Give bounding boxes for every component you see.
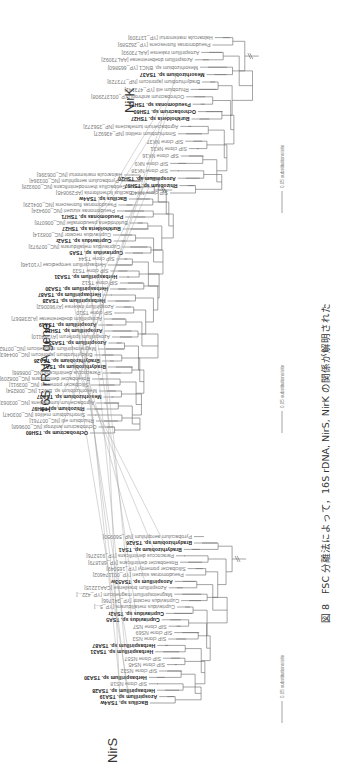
nirs-leaf-label: Cupriavidus necator [YP_341766] [101, 598, 179, 604]
nirk-clade [208, 67, 232, 74]
nirk-clade [178, 171, 204, 178]
nirs-leaf-label: SIP clone NS18 [110, 681, 147, 687]
nirk-clade [193, 141, 207, 148]
nirk-leaf-label: SIP clone NK9 [134, 161, 168, 167]
nirs-leaf-label: Paracoccus denitrificans [YP_915276] [86, 553, 174, 559]
nirk-leaf-label: Mesorhizobium sp. TSA37 [140, 72, 205, 78]
nirs-leaf-label: Cupriavidus sp. TSA2r [108, 611, 164, 617]
nirk-clade [200, 112, 222, 119]
nirk-clade [178, 156, 203, 163]
rrna16s-clade [106, 343, 125, 349]
nirk-clade [186, 126, 208, 133]
nirs-leaf-label: Silicibacter pomeroyi [YP_165049] [106, 566, 186, 572]
phylogenetic-trees: Bacillus sp. TSA4wAzospirillum sp. TSA19… [0, 0, 358, 773]
nirk-leaf-label: Rhizobium sp. TSH97 [124, 183, 177, 189]
nirs-clade [158, 697, 175, 703]
rrna16s-clade [118, 283, 144, 289]
rrna16s-clade [130, 247, 151, 253]
nirs-leaf-label: Azospirillum sp. TSA53w [110, 579, 173, 585]
nirk-scale-label: 0.05 substitutions/site [280, 144, 285, 188]
nirk-clade [208, 130, 227, 158]
rrna16s-clade [118, 271, 139, 277]
nirs-clade [174, 607, 193, 613]
nirs-clade [170, 620, 189, 626]
nirk-leaf-label: Bradyrhizobium japonicum [NP_773729] [107, 79, 200, 85]
nirs-leaf-label: Bradyrhizobium sp. TSA1 [119, 547, 182, 553]
nirk-clade [194, 97, 212, 104]
nirs-clade [182, 594, 207, 600]
nirk-leaf-label: SIP clone NK31 [150, 146, 187, 152]
nirk-leaf-label: Azospirillum doebereinerae [AAL73092] [101, 57, 193, 63]
nirs-clade [157, 684, 183, 690]
isolate-link [72, 361, 164, 543]
nirs-clade [184, 556, 208, 562]
nirs-leaf-label: SIP clone NS32 [120, 668, 157, 674]
nirk-leaf-label: SIP clone NK38 [131, 168, 168, 174]
nirk-leaf-label: SIP clone NK37 [147, 139, 184, 145]
rrna16s-scale-label: 0.05 substitutions/site [280, 364, 285, 408]
rrna16s-clade [125, 211, 153, 217]
nirs-leaf-label: SIP clone NS3 [132, 636, 166, 642]
nirs-leaf-label: Roseobacter denitrificans [YP_681879] [88, 560, 179, 566]
isolate-link [78, 367, 154, 549]
nirs-clade [157, 671, 181, 677]
nirs-leaf-label: Pseudomonas stutzeri [YP_001174602] [92, 572, 184, 578]
rrna16s-clade [99, 379, 120, 385]
nirk-leaf-label: Haloarcula marismortui [YP_137309] [127, 35, 212, 41]
nirs-leaf-label: SIP clone NS69 [136, 630, 173, 636]
nirs-clade [163, 645, 185, 651]
rrna16s-clade [111, 295, 136, 301]
rrna16s-clade [121, 235, 136, 241]
nirs-leaf-label: SIP clone NS57 [124, 656, 161, 662]
figure-canvas: NirS 16S rRNA gene NirK Bacillus sp. TSA… [0, 0, 358, 773]
nirk-clade [178, 186, 196, 193]
nirs-leaf-label: Cupriavidus metallidurans [YP_5...] [93, 604, 175, 610]
rrna16s-leaf-label: Haloarcula marismortui [NC_006396] [36, 172, 122, 178]
nirs-leaf-label: SIP clone NS45 [128, 662, 165, 668]
nirk-leaf-label: Sinorhizobium meliloti [NP_436927] [93, 131, 176, 137]
nirs-scale-label: 0.05 substitutions/site [280, 654, 285, 698]
nirs-leaf-label: Herbaspirillum sp. TSA28 [92, 688, 155, 694]
nirk-leaf-label: Pseudomonas fluorescens [YP_262589] [117, 42, 210, 48]
nirk-leaf-label: Azospirillum irakense [AAL73093] [121, 50, 199, 56]
nirk-clade [220, 38, 232, 45]
nirk-leaf-label: Pseudomonas sp. TSH71 [129, 102, 191, 108]
nirs-leaf-label: Azospirillum sp. TSA19 [99, 694, 157, 700]
nirs-clade [192, 543, 218, 549]
nirk-leaf-label: SIP clone NK40 [131, 190, 168, 196]
nirk-leaf-label: SIP clone NK16 [142, 153, 179, 159]
nirs-leaf-label: Pyrobaculum aerophilum [NP_560950] [102, 534, 192, 540]
rrna16s-clade [106, 319, 125, 325]
nirs-clade [177, 581, 197, 587]
nirk-leaf-label: Mesorhizobium sp. BNC1 [YP_665860] [107, 65, 198, 71]
nirk-leaf-label: Rhizobium etli [YP_473141] [124, 87, 189, 93]
nirk-clade [203, 52, 223, 59]
nirs-leaf-label: Herbaspirillum sp. TSA87 [92, 643, 155, 649]
nirs-leaf-label: Magnetospirillum magneticum [YP_422...] [76, 592, 173, 598]
nirs-clade [194, 569, 206, 575]
nirs-leaf-label: Azospirillum brasilense [CAA12215] [84, 585, 167, 591]
nirk-clade [199, 82, 219, 89]
nirs-leaf-label: Bacillus sp. TSA4w [99, 700, 148, 706]
nirs-clade [176, 633, 198, 639]
nirk-leaf-label: Azospirillum sp. TSH20 [118, 176, 176, 182]
nirs-leaf-label: Cupriavidus sp. TSA5 [106, 617, 160, 623]
rrna16s-clade [98, 427, 115, 433]
nirk-leaf-label: Agrobacterium tumefaciens [NP_356273] [83, 124, 178, 130]
rrna16s-clade [110, 367, 131, 373]
rrna16s-clade [126, 199, 152, 205]
rrna16s-clade [122, 307, 133, 313]
rrna16s-clade [131, 223, 148, 229]
rrna16s-clade [113, 331, 138, 337]
nirs-clade [171, 658, 185, 664]
nirk-leaf-label: Burkholderia sp. TSH27 [131, 116, 190, 122]
nirs-leaf-label: Bradyrhizobium sp. TSA26 [126, 540, 192, 546]
figure-caption: 図 8 FSC 分離法によって，16S rDNA, NirS, NirK の関係… [318, 303, 332, 623]
nirs-leaf-label: SIP clone NS7 [133, 624, 167, 630]
nirs-leaf-label: Herbaspirillum sp. TSA30 [84, 675, 147, 681]
